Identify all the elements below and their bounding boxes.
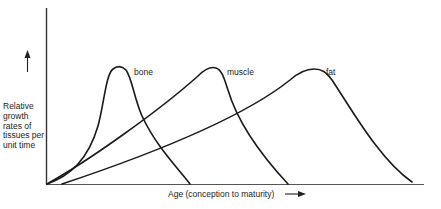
y-axis-label: Relative growth rates of tissues per uni… — [3, 102, 47, 151]
x-arrow-icon — [285, 191, 306, 197]
fat-curve — [62, 69, 412, 184]
bone-label: bone — [134, 67, 153, 77]
fat-label: fat — [326, 67, 335, 77]
bone-curve — [47, 67, 190, 184]
y-arrow-icon — [25, 50, 31, 72]
x-axis-label: Age (conception to maturity) — [168, 189, 274, 199]
growth-chart — [0, 0, 441, 209]
muscle-curve — [47, 67, 288, 184]
muscle-label: muscle — [227, 67, 254, 77]
